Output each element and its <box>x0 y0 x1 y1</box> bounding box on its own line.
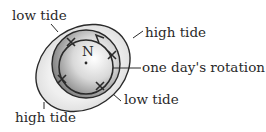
north-pole-label: N <box>82 43 94 59</box>
north-pole-dot <box>85 62 88 65</box>
label-high-tide-bottom: high tide <box>15 109 76 125</box>
leader-low-tide-bottom <box>113 94 121 101</box>
label-high-tide-right: high tide <box>145 24 206 40</box>
label-low-tide-top: low tide <box>12 7 67 23</box>
tide-diagram: N low tide high tide one day's rotation … <box>0 0 266 132</box>
leader-high-tide-right <box>133 31 143 38</box>
leader-low-tide-top <box>51 24 58 32</box>
label-low-tide-bottom: low tide <box>124 91 179 107</box>
label-one-days-rotation: one day's rotation <box>142 59 265 75</box>
